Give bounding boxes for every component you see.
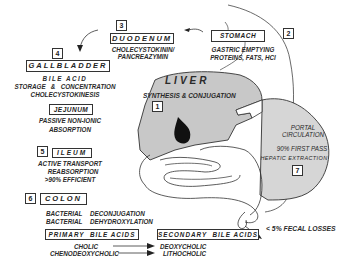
ileum-label: ILEUM — [57, 149, 87, 156]
primary-acid-cholic: CHOLIC — [74, 243, 98, 250]
stomach-to-duodenum-arrow — [188, 29, 203, 32]
ileum-text-3: >90% EFFICIENT — [35, 176, 105, 183]
step-number-1: 1 — [152, 101, 163, 112]
jejunum-text-2: ABSORPTION — [20, 126, 120, 133]
step-number-2: 2 — [283, 28, 294, 39]
jejunum-label-box: JEJUNUM — [49, 104, 93, 115]
portal-text-2: CIRCULATION — [274, 131, 332, 138]
colon-text-1a: BACTERIAL — [46, 210, 82, 217]
step-number-3: 3 — [116, 20, 127, 31]
portal-text-3: 90% FIRST PASS — [270, 145, 334, 152]
gallbladder-text-1: BILE ACID — [10, 75, 120, 82]
step-number-5: 5 — [37, 146, 48, 157]
portal-text-4: HEPATIC EXTRACTION — [254, 155, 334, 162]
duodenum-text-1: CHOLECYSTOKININ/ — [108, 46, 178, 53]
stomach-text-1: GASTRIC EMPTYING — [203, 46, 283, 53]
stomach-text-2: PROTEINS, FATS, HCl — [203, 54, 283, 61]
primary-bile-acids-box: PRIMARY BILE ACIDS — [45, 229, 139, 240]
primary-acid-chenodeoxycholic: CHENODEOXYCHOLIC — [50, 250, 119, 257]
colon-text-1b: DECONJUGATION — [90, 210, 145, 217]
duodenum-label-box: DUODENUM — [110, 33, 174, 44]
ileum-text-2: REABSORPTION — [38, 168, 108, 175]
jejunum-text-1: PASSIVE NON-IONIC — [20, 117, 120, 124]
liver-label: LIVER — [165, 75, 209, 86]
stomach-label: STOMACH — [220, 32, 256, 39]
intestine-loop-1 — [160, 157, 240, 186]
primary-bile-acids-label: PRIMARY BILE ACIDS — [49, 231, 136, 238]
colon-text-2a: BACTERIAL — [46, 218, 82, 225]
duodenum-text-2: PANCREAZYMIN — [108, 53, 178, 60]
intestine-outer — [140, 155, 258, 223]
gallbladder-text-3: CHOLECYSTOKINESIS — [10, 91, 120, 98]
colon-label-box: COLON — [40, 193, 87, 205]
secondary-bile-acids-label: SECONDARY BILE ACIDS — [158, 231, 258, 238]
colon-outline — [200, 146, 262, 215]
liver-text: SYNTHESIS & CONJUGATION — [143, 92, 236, 99]
portal-text-1: PORTAL — [278, 124, 328, 131]
stomach-label-box: STOMACH — [211, 30, 265, 42]
gallbladder-label-box: GALLBLADDER — [26, 60, 110, 72]
step-number-7: 7 — [292, 165, 303, 176]
jejunum-label: JEJUNUM — [54, 106, 89, 113]
step-number-4: 4 — [52, 48, 63, 59]
secondary-bile-acids-box: SECONDARY BILE ACIDS — [157, 229, 259, 240]
gallbladder-text-2: STORAGE & CONCENTRATION — [5, 83, 125, 90]
gallbladder-label: GALLBLADDER — [28, 61, 107, 70]
step-number-6: 6 — [25, 193, 36, 204]
colon-text-2b: DEHYDROXYLATION — [90, 218, 153, 225]
secondary-acid-lithocholic: LITHOCHOLIC — [163, 250, 206, 257]
ileum-label-box: ILEUM — [52, 148, 92, 158]
secondary-acid-deoxycholic: DEOXYCHOLIC — [160, 243, 206, 250]
ileum-text-1: ACTIVE TRANSPORT — [30, 160, 110, 167]
fecal-losses-label: < 5% FECAL LOSSES — [266, 225, 336, 232]
colon-label: COLON — [45, 194, 82, 203]
duodenum-label: DUODENUM — [112, 34, 172, 43]
